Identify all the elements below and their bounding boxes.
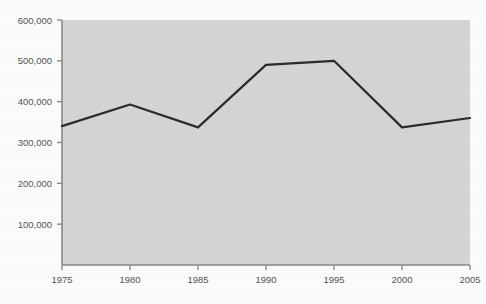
x-tick-label: 1995: [323, 274, 344, 285]
x-tick-label: 1975: [51, 274, 72, 285]
y-tick-label: 100,000: [18, 219, 52, 230]
y-tick-label: 600,000: [18, 15, 52, 26]
x-tick-label: 2005: [459, 274, 480, 285]
x-tick-label: 1980: [119, 274, 140, 285]
y-tick-label: 200,000: [18, 178, 52, 189]
x-tick-label: 1990: [255, 274, 276, 285]
chart-page: 100,000200,000300,000400,000500,000600,0…: [0, 0, 486, 304]
x-tick-label: 2000: [391, 274, 412, 285]
y-tick-label: 300,000: [18, 137, 52, 148]
y-tick-label: 500,000: [18, 55, 52, 66]
line-chart: 100,000200,000300,000400,000500,000600,0…: [0, 0, 486, 304]
y-axis-ticks: 100,000200,000300,000400,000500,000600,0…: [18, 15, 62, 230]
x-tick-label: 1985: [187, 274, 208, 285]
plot-area-background: [62, 20, 470, 265]
y-tick-label: 400,000: [18, 96, 52, 107]
x-axis-ticks: 1975198019851990199520002005: [51, 265, 480, 285]
